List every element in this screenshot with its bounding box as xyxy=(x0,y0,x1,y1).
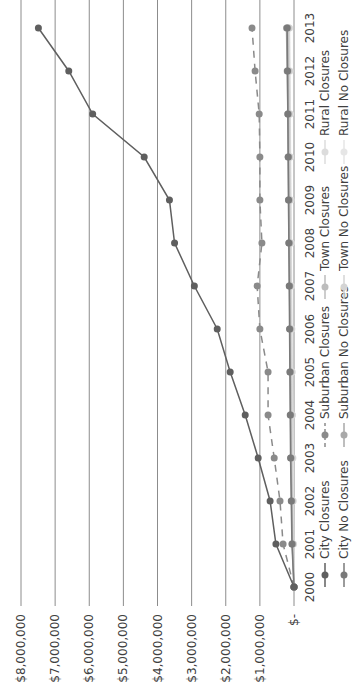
legend-item: City Closures xyxy=(318,480,332,587)
legend-label: Town Closures xyxy=(318,186,332,272)
y-tick-label: $- xyxy=(287,614,301,626)
data-point xyxy=(252,68,259,75)
legend-item: Town No Closures xyxy=(337,166,351,299)
x-tick-label: 2003 xyxy=(303,443,317,474)
legend-item: Suburban No Closures xyxy=(337,286,351,447)
data-point xyxy=(285,154,292,161)
data-point xyxy=(265,412,272,419)
data-point xyxy=(285,240,292,247)
data-point xyxy=(254,283,261,290)
data-point xyxy=(35,25,42,32)
legend-label: Suburban Closures xyxy=(318,306,332,419)
x-tick-label: 2004 xyxy=(303,400,317,431)
gridlines xyxy=(21,0,294,606)
x-tick-label: 2000 xyxy=(303,572,317,603)
y-tick-label: $7,000,000 xyxy=(48,614,62,683)
data-point xyxy=(271,455,278,462)
x-tick-label: 2005 xyxy=(303,357,317,388)
data-point xyxy=(277,498,284,505)
series-line xyxy=(38,28,294,587)
legend-item: Rural Closures xyxy=(318,50,332,164)
data-point xyxy=(267,498,274,505)
legend-item: Town Closures xyxy=(318,186,332,299)
legend-label: Rural Closures xyxy=(318,50,332,136)
legend-marker xyxy=(341,149,348,156)
legend-marker xyxy=(322,284,329,291)
data-point xyxy=(256,111,263,118)
y-tick-label: $6,000,000 xyxy=(82,614,96,683)
data-point xyxy=(256,197,263,204)
legend-label: Town No Closures xyxy=(337,166,351,272)
x-tick-label: 2013 xyxy=(303,13,317,44)
data-point xyxy=(256,154,263,161)
legend-marker xyxy=(322,572,329,579)
data-point xyxy=(284,25,291,32)
legend-label: Suburban No Closures xyxy=(337,286,351,419)
y-tick-label: $4,000,000 xyxy=(151,614,165,683)
data-point xyxy=(288,498,295,505)
data-point xyxy=(258,240,265,247)
y-tick-label: $1,000,000 xyxy=(253,614,267,683)
data-point xyxy=(291,584,298,591)
y-tick-label: $3,000,000 xyxy=(185,614,199,683)
legend-item: Rural No Closures xyxy=(337,30,351,164)
data-point xyxy=(280,541,287,548)
legend-marker xyxy=(341,432,348,439)
x-tick-label: 2008 xyxy=(303,228,317,259)
data-point xyxy=(141,154,148,161)
legend-marker xyxy=(341,572,348,579)
chart-container: $-$1,000,000$2,000,000$3,000,000$4,000,0… xyxy=(0,0,363,684)
data-point xyxy=(286,326,293,333)
data-point xyxy=(287,455,294,462)
y-tick-label: $8,000,000 xyxy=(14,614,28,683)
x-axis-tick-labels: 2000200120022003200420052006200720082009… xyxy=(303,13,317,603)
data-point xyxy=(286,283,293,290)
legend-label: City Closures xyxy=(318,480,332,559)
data-point xyxy=(288,541,295,548)
data-point xyxy=(265,369,272,376)
x-tick-label: 2009 xyxy=(303,185,317,216)
x-tick-label: 2007 xyxy=(303,271,317,302)
x-tick-label: 2010 xyxy=(303,142,317,173)
x-tick-label: 2011 xyxy=(303,99,317,130)
legend-marker xyxy=(341,284,348,291)
y-axis-tick-labels: $-$1,000,000$2,000,000$3,000,000$4,000,0… xyxy=(14,614,301,683)
data-point xyxy=(171,240,178,247)
data-point xyxy=(256,326,263,333)
data-point xyxy=(272,541,279,548)
data-point xyxy=(284,111,291,118)
data-point xyxy=(286,369,293,376)
data-point xyxy=(255,455,262,462)
data-point xyxy=(287,412,294,419)
data-point xyxy=(65,68,72,75)
legend-item: Suburban Closures xyxy=(318,306,332,447)
data-point xyxy=(191,283,198,290)
data-point xyxy=(166,197,173,204)
line-chart: $-$1,000,000$2,000,000$3,000,000$4,000,0… xyxy=(0,0,363,684)
x-tick-label: 2012 xyxy=(303,56,317,87)
legend-label: Rural No Closures xyxy=(337,30,351,136)
data-point xyxy=(242,412,249,419)
data-point xyxy=(214,326,221,333)
legend-marker xyxy=(322,149,329,156)
y-tick-label: $2,000,000 xyxy=(219,614,233,683)
x-tick-label: 2002 xyxy=(303,486,317,517)
series-lines xyxy=(35,25,298,591)
y-tick-label: $5,000,000 xyxy=(116,614,130,683)
data-point xyxy=(249,25,256,32)
legend-marker xyxy=(322,432,329,439)
data-point xyxy=(285,197,292,204)
data-point xyxy=(89,111,96,118)
data-point xyxy=(227,369,234,376)
legend-label: City No Closures xyxy=(337,460,351,559)
legend-item: City No Closures xyxy=(337,460,351,587)
x-tick-label: 2001 xyxy=(303,529,317,560)
data-point xyxy=(284,68,291,75)
legend: City ClosuresCity No ClosuresSuburban Cl… xyxy=(318,30,351,587)
x-tick-label: 2006 xyxy=(303,314,317,345)
